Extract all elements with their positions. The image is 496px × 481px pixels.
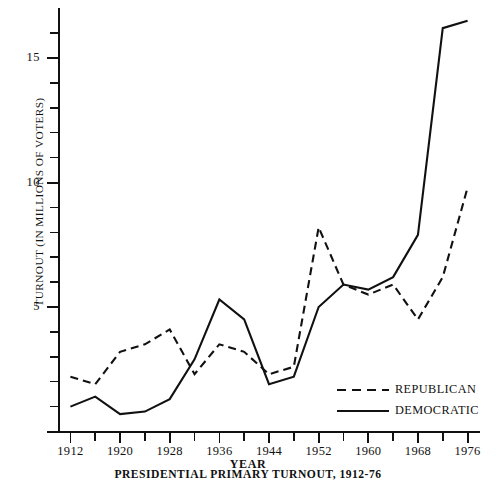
legend: REPUBLICAN DEMOCRATIC <box>337 379 487 421</box>
chart-caption: PRESIDENTIAL PRIMARY TURNOUT, 1912-76 <box>0 468 496 481</box>
dashed-line-swatch-icon <box>337 384 389 396</box>
series-line-republican <box>70 187 467 384</box>
series-line-democratic <box>70 21 467 414</box>
legend-label-democratic: DEMOCRATIC <box>389 403 479 418</box>
legend-item-republican: REPUBLICAN <box>337 379 487 400</box>
legend-label-republican: REPUBLICAN <box>389 382 476 397</box>
solid-line-swatch-icon <box>337 405 389 417</box>
legend-item-democratic: DEMOCRATIC <box>337 400 487 421</box>
